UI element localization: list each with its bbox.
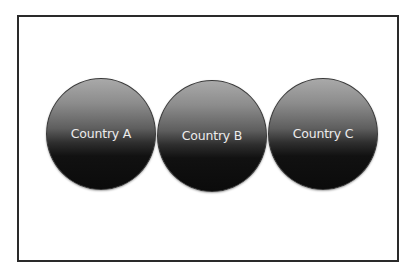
country-a-label: Country A: [71, 126, 131, 141]
country-c-label: Country C: [293, 126, 354, 141]
country-b-label: Country B: [182, 128, 242, 143]
country-b-circle: Country B: [157, 80, 267, 192]
country-c-circle: Country C: [268, 78, 378, 190]
country-a-circle: Country A: [46, 78, 156, 190]
